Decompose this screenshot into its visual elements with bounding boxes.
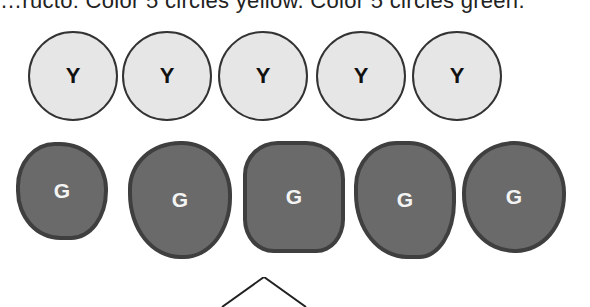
circle-label: Y [160,63,175,89]
green-shape-3: G [243,141,345,253]
yellow-circle-5: Y [412,31,502,121]
circle-label: Y [66,63,81,89]
shape-label: G [54,179,70,203]
shape-label: G [506,185,522,209]
shape-label: G [397,188,413,212]
yellow-circle-1: Y [28,31,118,121]
instruction-text: …ructo: Color 5 circles yellow. Color 5 … [0,0,590,14]
shape-label: G [286,185,302,209]
circle-label: Y [354,63,369,89]
green-shape-1: G [16,142,108,240]
green-shape-4: G [354,141,456,259]
circle-label: Y [256,63,271,89]
shape-label: G [172,188,188,212]
yellow-circle-3: Y [218,31,308,121]
triangle-shape [200,277,310,307]
yellow-circle-4: Y [316,31,406,121]
yellow-circle-2: Y [122,31,212,121]
green-shape-2: G [128,141,232,259]
circle-label: Y [450,63,465,89]
green-shape-5: G [462,141,566,253]
